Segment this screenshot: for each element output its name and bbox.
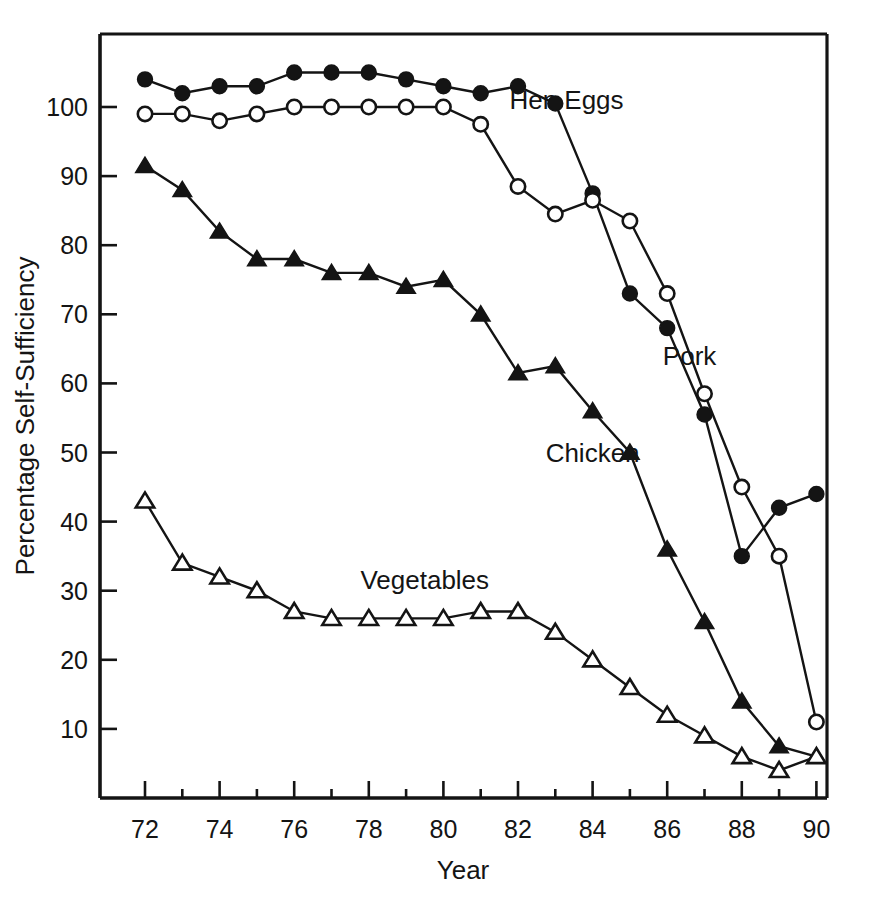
datapoint-vegetables-83 — [546, 624, 564, 639]
datapoint-pork-85 — [623, 214, 637, 228]
series-markers-group — [136, 65, 826, 777]
y-tick-label-60: 60 — [60, 369, 88, 397]
plot-frame — [100, 34, 827, 798]
datapoint-hen-eggs-89 — [772, 500, 787, 515]
datapoint-pork-90 — [809, 715, 823, 729]
datapoint-pork-89 — [772, 549, 786, 563]
datapoint-hen-eggs-76 — [287, 65, 302, 80]
datapoint-hen-eggs-77 — [324, 65, 339, 80]
datapoint-hen-eggs-86 — [660, 321, 675, 336]
datapoint-pork-75 — [250, 107, 264, 121]
datapoint-hen-eggs-72 — [138, 72, 153, 87]
y-tick-label-50: 50 — [60, 439, 88, 467]
datapoint-pork-88 — [735, 480, 749, 494]
datapoint-hen-eggs-74 — [212, 79, 227, 94]
datapoint-hen-eggs-85 — [623, 286, 638, 301]
datapoint-vegetables-74 — [210, 568, 228, 583]
y-tick-label-100: 100 — [46, 93, 88, 121]
datapoint-pork-74 — [212, 114, 226, 128]
datapoint-hen-eggs-80 — [436, 79, 451, 94]
datapoint-chicken-88 — [733, 693, 751, 708]
y-tick-label-40: 40 — [60, 508, 88, 536]
x-axis-tick-labels: 72747678808284868890 — [131, 815, 830, 843]
datapoint-pork-81 — [474, 117, 488, 131]
x-tick-label-88: 88 — [728, 815, 756, 843]
y-tick-label-70: 70 — [60, 300, 88, 328]
datapoint-chicken-83 — [546, 358, 564, 373]
datapoint-pork-87 — [697, 387, 711, 401]
series-lines-group — [145, 72, 816, 770]
x-tick-label-80: 80 — [429, 815, 457, 843]
datapoint-pork-79 — [399, 100, 413, 114]
datapoint-chicken-72 — [136, 157, 154, 172]
datapoint-pork-83 — [548, 207, 562, 221]
datapoint-pork-77 — [324, 100, 338, 114]
datapoint-pork-72 — [138, 107, 152, 121]
datapoint-pork-86 — [660, 286, 674, 300]
datapoint-vegetables-88 — [733, 748, 751, 763]
datapoint-hen-eggs-79 — [399, 72, 414, 87]
datapoint-vegetables-73 — [173, 555, 191, 570]
series-label-vegetables: Vegetables — [360, 565, 489, 595]
datapoint-chicken-73 — [173, 181, 191, 196]
y-tick-label-10: 10 — [60, 715, 88, 743]
chart-figure: 102030405060708090100 727476788082848688… — [0, 0, 871, 905]
datapoint-chicken-87 — [695, 613, 713, 628]
datapoint-pork-78 — [362, 100, 376, 114]
y-tick-label-30: 30 — [60, 577, 88, 605]
datapoint-hen-eggs-81 — [473, 86, 488, 101]
datapoint-vegetables-75 — [248, 582, 266, 597]
datapoint-hen-eggs-78 — [361, 65, 376, 80]
datapoint-pork-82 — [511, 179, 525, 193]
datapoint-hen-eggs-75 — [250, 79, 265, 94]
datapoint-vegetables-72 — [136, 492, 154, 507]
datapoint-hen-eggs-73 — [175, 86, 190, 101]
x-axis-title: Year — [437, 855, 490, 885]
series-label-pork: Pork — [663, 341, 717, 371]
datapoint-vegetables-76 — [285, 603, 303, 618]
y-axis-tick-labels: 102030405060708090100 — [46, 93, 88, 743]
x-tick-label-84: 84 — [579, 815, 607, 843]
y-tick-label-20: 20 — [60, 646, 88, 674]
series-line-pork — [145, 107, 816, 722]
datapoint-hen-eggs-88 — [734, 549, 749, 564]
x-tick-label-78: 78 — [355, 815, 383, 843]
y-axis-title: Percentage Self-Sufficiency — [10, 257, 40, 576]
datapoint-hen-eggs-87 — [697, 407, 712, 422]
series-label-hen-eggs: Hen Eggs — [509, 85, 623, 115]
datapoint-pork-73 — [175, 107, 189, 121]
series-label-chicken: Chicken — [546, 438, 640, 468]
datapoint-vegetables-89 — [770, 762, 788, 777]
x-tick-label-82: 82 — [504, 815, 532, 843]
x-tick-label-90: 90 — [802, 815, 830, 843]
line-chart-svg: 102030405060708090100 727476788082848688… — [0, 0, 871, 905]
datapoint-pork-76 — [287, 100, 301, 114]
series-line-vegetables — [145, 501, 816, 770]
x-tick-label-86: 86 — [653, 815, 681, 843]
y-tick-label-90: 90 — [60, 162, 88, 190]
datapoint-pork-84 — [585, 193, 599, 207]
series-inline-labels: Hen EggsPorkChickenVegetables — [360, 85, 717, 595]
datapoint-hen-eggs-90 — [809, 487, 824, 502]
datapoint-vegetables-87 — [695, 727, 713, 742]
x-tick-label-72: 72 — [131, 815, 159, 843]
y-tick-label-80: 80 — [60, 231, 88, 259]
x-tick-label-76: 76 — [280, 815, 308, 843]
x-tick-label-74: 74 — [206, 815, 234, 843]
datapoint-chicken-80 — [434, 271, 452, 286]
datapoint-pork-80 — [436, 100, 450, 114]
y-axis-ticks — [100, 107, 117, 729]
datapoint-chicken-86 — [658, 541, 676, 556]
